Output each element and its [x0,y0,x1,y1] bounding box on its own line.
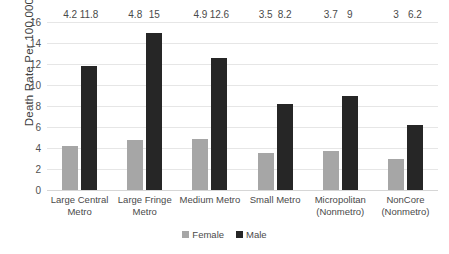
bar-male[interactable]: 15 [146,33,162,191]
category-label-line: Medium Metro [177,194,242,206]
category-label-line: Metro [112,206,177,218]
bar-value-label: 3 [393,9,399,20]
gridline: 0 [47,190,438,191]
legend-swatch-icon [182,231,189,238]
bar-chart: Death Rate Per 100,000 1614121086420 4.2… [0,0,449,254]
bar-groups: 4.211.84.8154.912.63.58.23.7936.2 [47,22,438,190]
legend-item-female[interactable]: Female [182,229,224,240]
legend-label: Female [192,229,224,240]
bar-female[interactable]: 4.9 [192,139,208,190]
bar-wrapper: 4.8 [127,22,143,190]
legend-label: Male [246,229,267,240]
x-axis-category-label: Large FringeMetro [112,194,177,218]
y-axis-tick-label: 10 [30,80,41,91]
bar-female[interactable]: 3 [388,159,404,191]
bar-female[interactable]: 3.5 [258,153,274,190]
bar-female[interactable]: 4.8 [127,140,143,190]
bar-value-label: 4.8 [128,9,142,20]
bar-male[interactable]: 8.2 [277,104,293,190]
bar-group: 4.912.6 [177,22,242,190]
category-label-line: (Nonmetro) [373,206,438,218]
y-axis-tick-label: 8 [35,101,41,112]
category-label-line: Small Metro [243,194,308,206]
bar-group: 4.211.8 [47,22,112,190]
bar-value-label: 15 [149,9,160,20]
y-axis-tick-label: 4 [35,143,41,154]
bar-value-label: 11.8 [80,9,99,20]
y-axis-tick-label: 16 [30,17,41,28]
bar-wrapper: 3 [388,22,404,190]
bar-female[interactable]: 3.7 [323,151,339,190]
category-label-line: NonCore [373,194,438,206]
bar-wrapper: 15 [146,22,162,190]
bar-wrapper: 8.2 [277,22,293,190]
x-axis-category-label: NonCore(Nonmetro) [373,194,438,218]
bar-value-label: 4.2 [63,9,77,20]
bar-value-label: 4.9 [193,9,207,20]
category-label-line: Micropolitan [308,194,373,206]
category-label-line: (Nonmetro) [308,206,373,218]
y-axis-tick-label: 6 [35,122,41,133]
x-axis-category-label: Micropolitan(Nonmetro) [308,194,373,218]
bar-wrapper: 3.7 [323,22,339,190]
y-axis-tick-label: 2 [35,164,41,175]
category-label-line: Metro [47,206,112,218]
bar-wrapper: 4.9 [192,22,208,190]
y-axis-tick-label: 0 [35,185,41,196]
bar-male[interactable]: 11.8 [81,66,97,190]
clipped-chart-title [0,0,449,1]
category-label-line: Large Fringe [112,194,177,206]
bar-male[interactable]: 12.6 [211,58,227,190]
bar-wrapper: 6.2 [407,22,423,190]
x-axis-category-label: Large CentralMetro [47,194,112,218]
bar-value-label: 6.2 [408,9,422,20]
bar-wrapper: 12.6 [211,22,227,190]
bar-value-label: 8.2 [278,9,292,20]
bar-male[interactable]: 6.2 [407,125,423,190]
bar-value-label: 3.5 [259,9,273,20]
y-axis-tick-label: 14 [30,38,41,49]
x-axis-category-label: Medium Metro [177,194,242,218]
category-label-line: Large Central [47,194,112,206]
bar-male[interactable]: 9 [342,96,358,191]
x-axis-category-label: Small Metro [243,194,308,218]
bar-group: 3.79 [308,22,373,190]
bar-value-label: 9 [347,9,353,20]
bar-group: 4.815 [112,22,177,190]
bar-wrapper: 9 [342,22,358,190]
bar-wrapper: 11.8 [81,22,97,190]
chart-legend: FemaleMale [0,229,449,240]
bar-group: 36.2 [373,22,438,190]
bar-wrapper: 3.5 [258,22,274,190]
bar-group: 3.58.2 [243,22,308,190]
bar-value-label: 3.7 [324,9,338,20]
bar-wrapper: 4.2 [62,22,78,190]
x-axis-category-labels: Large CentralMetroLarge FringeMetroMediu… [47,194,438,218]
legend-item-male[interactable]: Male [236,229,267,240]
y-axis-tick-label: 12 [30,59,41,70]
bar-female[interactable]: 4.2 [62,146,78,190]
plot-area: 1614121086420 4.211.84.8154.912.63.58.23… [47,22,438,190]
legend-swatch-icon [236,231,243,238]
bar-value-label: 12.6 [210,9,229,20]
